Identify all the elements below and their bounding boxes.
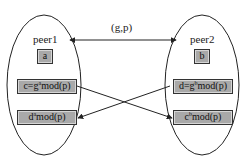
peer1-public-rhs: mod(p) (41, 80, 70, 91)
peer1-shared-rhs: mod(p) (36, 111, 65, 122)
peer1-secret: a (43, 50, 47, 61)
peer2-secret-box: b (194, 49, 210, 64)
peer1-label: peer1 (33, 33, 57, 45)
peer2-public-rhs: mod(p) (198, 80, 227, 91)
peer2-public-value-box: d=gbmod(p) (173, 79, 233, 94)
peer1-public-lhs: c=g (23, 80, 38, 91)
peer2-shared-key-box: cbmod(p) (173, 110, 233, 125)
peer2-secret: b (200, 50, 205, 61)
peer2-public-lhs: d=g (179, 80, 195, 91)
peer2-label: peer2 (190, 33, 214, 45)
peer1-public-value-box: c=gamod(p) (17, 79, 77, 94)
peer1-secret-box: a (37, 49, 53, 64)
public-params-label: (g,p) (111, 21, 132, 33)
peer2-shared-rhs: mod(p) (192, 111, 221, 122)
peer1-shared-key-box: damod(p) (17, 110, 77, 125)
